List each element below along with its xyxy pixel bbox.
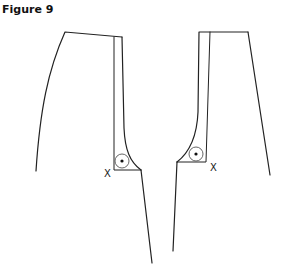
left-piece-outer-edge — [36, 32, 122, 171]
right-circle-marker — [189, 147, 203, 161]
pattern-diagram: X X — [0, 0, 284, 276]
left-pattern-piece — [36, 32, 152, 263]
right-pattern-piece — [173, 32, 270, 251]
right-piece-crotch-curve — [177, 32, 248, 162]
right-x-label: X — [210, 162, 217, 173]
right-piece-outer-edge — [248, 32, 270, 175]
left-piece-inseam — [141, 170, 152, 263]
left-x-label: X — [104, 168, 111, 179]
right-piece-inseam — [173, 162, 177, 251]
left-piece-crotch-curve — [122, 37, 141, 170]
left-circle-marker — [115, 154, 129, 168]
right-piece-inner-line — [177, 32, 210, 162]
